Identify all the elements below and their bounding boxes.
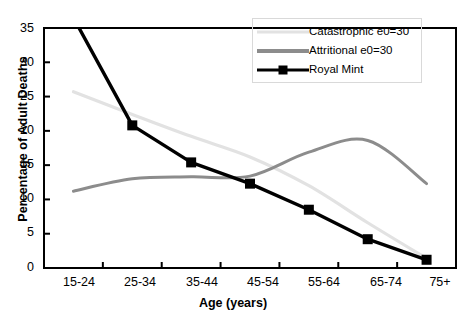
legend-label-attritional: Attritional e0=30	[309, 45, 392, 57]
data-point-marker	[304, 205, 314, 215]
legend-swatch-catastrophic-icon	[257, 26, 309, 38]
legend-label-catastrophic: Catastrophic e0=30	[309, 26, 409, 38]
data-point-marker	[127, 120, 137, 130]
data-point-marker	[186, 157, 196, 167]
legend-swatch-royal-mint-icon	[257, 64, 309, 76]
legend-item-royal-mint: Royal Mint	[253, 60, 421, 79]
data-point-marker	[245, 179, 255, 189]
data-point-marker	[68, 13, 78, 23]
chart-container: Percentage of Adult Deaths 35 30 25 20 1…	[0, 0, 466, 325]
legend-label-royal-mint: Royal Mint	[309, 64, 363, 76]
data-point-marker	[363, 234, 373, 244]
legend-item-catastrophic: Catastrophic e0=30	[253, 22, 421, 41]
legend-swatch-attritional-icon	[257, 45, 309, 57]
legend-square-marker-icon	[279, 65, 288, 74]
data-point-marker	[422, 255, 432, 265]
legend: Catastrophic e0=30 Attritional e0=30 Roy…	[252, 18, 422, 83]
legend-item-attritional: Attritional e0=30	[253, 41, 421, 60]
